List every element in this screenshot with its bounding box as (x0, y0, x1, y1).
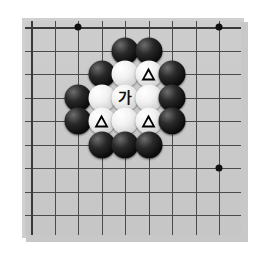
star-point (216, 165, 223, 172)
star-point (75, 24, 82, 31)
triangle-mark-icon (141, 68, 156, 81)
grid-line-horizontal (25, 168, 241, 169)
grid-line-vertical (55, 21, 56, 235)
diagram-root: 가 (0, 0, 256, 254)
black-stone[interactable] (135, 131, 162, 158)
grid-line-vertical (196, 21, 197, 235)
grid-line-vertical (31, 21, 33, 235)
grid-line-horizontal (25, 215, 241, 216)
star-point (216, 24, 223, 31)
black-stone[interactable] (159, 108, 186, 135)
go-board[interactable]: 가 (25, 21, 241, 235)
grid-line-horizontal (25, 27, 241, 29)
grid-line-vertical (219, 21, 220, 235)
triangle-mark-icon (141, 115, 156, 128)
grid-line-horizontal (25, 192, 241, 193)
triangle-mark-icon (94, 115, 109, 128)
stone-label: 가 (118, 90, 132, 105)
